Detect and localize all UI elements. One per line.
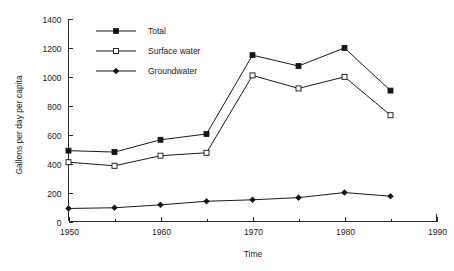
data-point [112, 150, 117, 155]
y-tick-label: 800 [47, 102, 61, 112]
y-tick-label: 1200 [43, 44, 62, 54]
data-point [342, 45, 347, 50]
chart-container: 0200400600800100012001400 19501960197019… [0, 0, 454, 271]
data-point [204, 131, 209, 136]
x-tick-label: 1990 [428, 227, 447, 237]
y-tick-label: 1000 [43, 73, 62, 83]
data-point [250, 73, 255, 78]
data-point [158, 153, 163, 158]
y-tick-label: 400 [47, 160, 61, 170]
legend-sample-marker [114, 29, 119, 34]
legend-label: Surface water [148, 46, 201, 56]
x-axis-title: Time [244, 249, 263, 259]
x-tick-label: 1950 [60, 227, 79, 237]
data-point [388, 88, 393, 93]
y-tick-label: 600 [47, 131, 61, 141]
data-point [296, 64, 301, 69]
line-chart: 0200400600800100012001400 19501960197019… [0, 0, 454, 271]
data-point [250, 53, 255, 58]
y-tick-label: 200 [47, 189, 61, 199]
y-tick-label: 1400 [43, 15, 62, 25]
legend-label: Total [148, 26, 166, 36]
data-point [158, 137, 163, 142]
data-point [342, 74, 347, 79]
y-axis-title: Gallons per day per capita [14, 75, 24, 174]
legend-sample-marker [114, 49, 119, 54]
x-tick-label: 1960 [152, 227, 171, 237]
data-point [204, 150, 209, 155]
data-point [388, 113, 393, 118]
data-point [112, 163, 117, 168]
data-point [66, 160, 71, 165]
data-point [296, 86, 301, 91]
x-tick-label: 1970 [244, 227, 263, 237]
x-tick-label: 1980 [336, 227, 355, 237]
data-point [66, 148, 71, 153]
legend-label: Groundwater [148, 66, 197, 76]
